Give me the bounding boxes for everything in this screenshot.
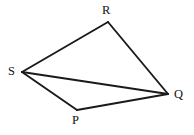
vertex-label-P: P [72,114,79,127]
polygon-edges [22,22,168,110]
edge-R-Q [108,22,168,94]
edge-P-S [22,72,77,110]
vertex-label-S: S [8,65,15,78]
edge-S-R [22,22,108,72]
vertex-label-Q: Q [174,88,183,101]
geometry-figure: R S Q P [0,0,194,135]
diagonal-edges [22,72,168,94]
edge-S-Q-diagonal [22,72,168,94]
figure-canvas [0,0,194,135]
vertex-label-R: R [102,4,110,17]
edge-Q-P [77,94,168,110]
